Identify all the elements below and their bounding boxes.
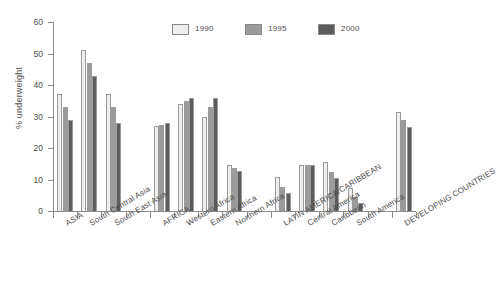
bar (213, 98, 218, 211)
bar (184, 101, 189, 211)
bar (116, 123, 121, 211)
y-axis-tick-label: 10 (23, 176, 43, 185)
bar (189, 98, 194, 211)
y-axis-tick-label: 0 (23, 207, 43, 216)
y-axis-tick-label: 20 (23, 144, 43, 153)
y-axis-tick-label: 50 (23, 50, 43, 59)
x-axis-category-label: DEVELOPING COUNTRIES (403, 166, 497, 227)
bar (87, 63, 92, 211)
bar (202, 117, 207, 212)
y-axis-tick-label: 40 (23, 81, 43, 90)
x-axis-tick (150, 212, 151, 218)
bar (106, 94, 111, 211)
bar (286, 193, 291, 211)
bar (81, 50, 86, 211)
bar (208, 107, 213, 211)
x-axis-tick (392, 212, 393, 218)
y-axis-tick-label: 60 (23, 18, 43, 27)
bar (92, 76, 97, 211)
bar (299, 165, 304, 211)
bar (63, 107, 68, 211)
bar (178, 104, 183, 211)
y-axis-tick-label: 30 (23, 113, 43, 122)
bar (407, 127, 412, 211)
x-axis-tick (53, 212, 54, 218)
x-axis-category-label: ASIA (64, 210, 85, 227)
bar (111, 107, 116, 211)
bar (57, 94, 62, 211)
y-axis-title: % underweight (14, 43, 24, 153)
x-axis-tick (271, 212, 272, 218)
bar (68, 120, 73, 211)
